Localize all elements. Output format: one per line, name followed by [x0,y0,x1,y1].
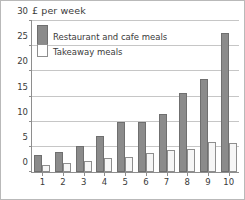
legend-label-takeaway: Takeaway meals [53,47,122,57]
x-axis-tick-6 [146,173,147,176]
bar-takeaway-2 [63,163,71,172]
legend-label-restaurant: Restaurant and cafe meals [53,32,167,42]
x-axis-label-6: 6 [143,177,148,187]
bar-chart: £ per week 051015202530 12345678910 Rest… [0,0,245,200]
x-axis-tick-1 [42,173,43,176]
bar-takeaway-4 [104,158,112,172]
x-axis-tick-5 [125,173,126,176]
x-axis-label-5: 5 [122,177,127,187]
bar-restaurant-5 [117,122,125,172]
y-axis-label-0: 0 [23,157,28,167]
bar-restaurant-4 [96,136,104,172]
bar-takeaway-8 [187,149,195,172]
legend-swatch-takeaway-icon [37,44,48,57]
bar-takeaway-7 [167,150,175,172]
x-axis-tick-4 [104,173,105,176]
bar-takeaway-6 [146,153,154,172]
bar-takeaway-5 [125,157,133,172]
legend-item-takeaway: Takeaway meals [53,44,167,59]
legend-item-restaurant: Restaurant and cafe meals [53,29,167,44]
bar-group-8: 8 [177,21,198,172]
x-axis-label-4: 4 [102,177,107,187]
y-axis-label-5: 5 [23,132,28,142]
x-axis-tick-3 [84,173,85,176]
bar-restaurant-3 [76,146,84,172]
y-axis-label-10: 10 [17,107,28,117]
x-axis-tick-10 [229,173,230,176]
x-axis-tick-8 [187,173,188,176]
bar-restaurant-1 [34,155,42,172]
x-axis-label-7: 7 [164,177,169,187]
x-axis-label-3: 3 [81,177,86,187]
x-axis-label-2: 2 [60,177,65,187]
bar-takeaway-3 [84,161,92,172]
bar-takeaway-1 [42,165,50,172]
bar-restaurant-8 [179,93,187,172]
bar-takeaway-9 [208,142,216,172]
x-axis-tick-9 [208,173,209,176]
x-axis-tick-7 [167,173,168,176]
bar-restaurant-2 [55,152,63,172]
x-axis-tick-2 [63,173,64,176]
bar-restaurant-10 [221,33,229,172]
y-axis-label-20: 20 [17,56,28,66]
bar-takeaway-10 [229,143,237,172]
bar-restaurant-9 [200,79,208,172]
bar-group-10: 10 [218,21,239,172]
x-axis-label-10: 10 [223,177,234,187]
bar-restaurant-7 [159,114,167,172]
bar-restaurant-6 [138,122,146,172]
y-axis-label-15: 15 [17,82,28,92]
x-axis-label-8: 8 [185,177,190,187]
legend: Restaurant and cafe meals Takeaway meals [53,29,167,59]
x-axis-label-1: 1 [40,177,45,187]
x-axis-label-9: 9 [205,177,210,187]
y-axis-label-25: 25 [17,31,28,41]
bar-group-9: 9 [198,21,219,172]
y-axis-title: £ per week [32,5,86,16]
y-axis-label-30: 30 [17,6,28,16]
